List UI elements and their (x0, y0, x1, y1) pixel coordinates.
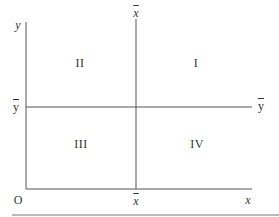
y-mean-left-label: y (13, 101, 19, 113)
quadrant-IV-label: IV (190, 138, 204, 150)
quadrant-II-label: II (76, 57, 85, 69)
diagram-lines (0, 0, 279, 217)
quadrant-I-label: I (194, 57, 199, 69)
y-axis-label: y (15, 19, 20, 31)
origin-label: O (14, 194, 23, 206)
x-axis-label: x (245, 194, 250, 206)
x-mean-bottom-label: x (133, 195, 138, 207)
quadrant-diagram: y x y y O x x II I III IV (0, 0, 279, 217)
x-mean-top-label: x (133, 7, 138, 19)
y-mean-right-label: y (258, 100, 264, 112)
quadrant-III-label: III (74, 138, 88, 150)
